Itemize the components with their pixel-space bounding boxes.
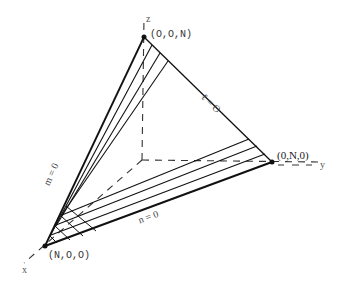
simplex-svg	[0, 0, 350, 291]
x-axis-label: x	[22, 265, 27, 275]
y-axis-label: y	[320, 160, 325, 170]
simplex-diagram: z y x (O,O,N) (0,N,0) (N,O,O) ℓ = O m = …	[0, 0, 350, 291]
vertex-right-label: (0,N,0)	[277, 150, 309, 161]
coordinate-axes	[24, 18, 318, 263]
x-axis	[24, 160, 142, 263]
z-axis-label: z	[146, 14, 150, 24]
vertex-top-label: (O,O,N)	[150, 30, 192, 40]
vertex-bottom-left-label: (N,O,O)	[48, 251, 90, 261]
vertex-bottom-left-dot	[43, 244, 48, 249]
vertex-right-dot	[270, 160, 275, 165]
vertex-top-dot	[142, 35, 147, 40]
